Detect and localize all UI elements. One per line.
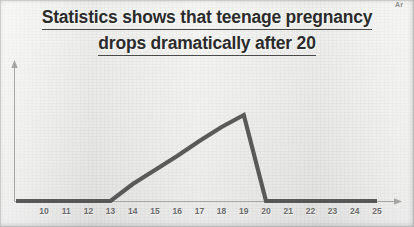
x-tick-label: 18 [217,206,226,216]
x-tick-label: 15 [150,206,159,216]
x-axis-arrow-icon [394,198,402,204]
chart-title-line-1: Statistics shows that teenage pregnancy [42,6,373,30]
x-tick-label: 10 [39,206,48,216]
x-tick-label: 21 [283,206,292,216]
x-tick-label: 14 [128,206,137,216]
x-tick-label: 19 [239,206,248,216]
x-tick-label: 12 [84,206,93,216]
x-tick-label: 13 [106,206,115,216]
data-series-line [16,115,377,201]
x-tick-label: 16 [172,206,181,216]
x-tick-label: 23 [328,206,337,216]
x-axis-tick-labels: 10111213141516171819202122232425 [0,206,414,222]
chart-title-line-2: drops dramatically after 20 [98,32,315,56]
x-tick-label: 20 [261,206,270,216]
x-tick-label: 24 [350,206,359,216]
x-tick-label: 17 [195,206,204,216]
x-tick-label: 22 [306,206,315,216]
y-axis-arrow-icon [11,60,17,68]
chart-title: Statistics shows that teenage pregnancy … [0,6,414,56]
x-tick-label: 25 [372,206,381,216]
x-tick-label: 11 [62,206,71,216]
chart-screenshot: Statistics shows that teenage pregnancy … [0,0,414,227]
